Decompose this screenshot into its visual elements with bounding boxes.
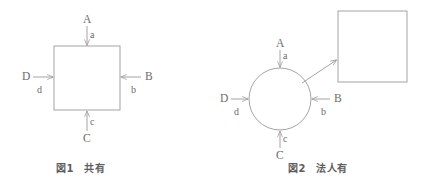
fig1-caption: 図1 共有 — [56, 163, 105, 175]
fig2-label-bottom-lower: c — [283, 133, 287, 144]
fig1-square — [54, 46, 120, 110]
fig2-label-top-lower: a — [283, 50, 287, 61]
fig2-caption: 図2 法人有 — [288, 163, 347, 175]
figure-page: A a B b C c D d 図1 共有 A a B b C c D d 図2… — [0, 0, 427, 185]
fig1-label-right-upper: B — [145, 71, 153, 82]
fig1-label-bottom-lower: c — [90, 116, 94, 127]
fig1-label-left-upper: D — [22, 71, 30, 82]
fig2-square — [338, 11, 407, 82]
fig1-label-top-upper: A — [83, 14, 91, 25]
fig2-label-left-upper: D — [220, 93, 228, 104]
fig2-label-right-upper: B — [334, 93, 342, 104]
fig2-label-right-lower: b — [321, 106, 326, 117]
fig2-circle — [249, 68, 311, 130]
fig1-label-right-lower: b — [131, 84, 136, 95]
fig1-label-left-lower: d — [37, 84, 42, 95]
fig2-label-left-lower: d — [234, 106, 239, 117]
fig2-output-arrow — [302, 60, 337, 83]
fig1-label-bottom-upper: C — [83, 133, 91, 144]
fig1-label-top-lower: a — [90, 29, 94, 40]
fig2-label-top-upper: A — [276, 38, 284, 49]
fig2-label-bottom-upper: C — [276, 150, 284, 161]
diagram-canvas — [0, 0, 427, 185]
